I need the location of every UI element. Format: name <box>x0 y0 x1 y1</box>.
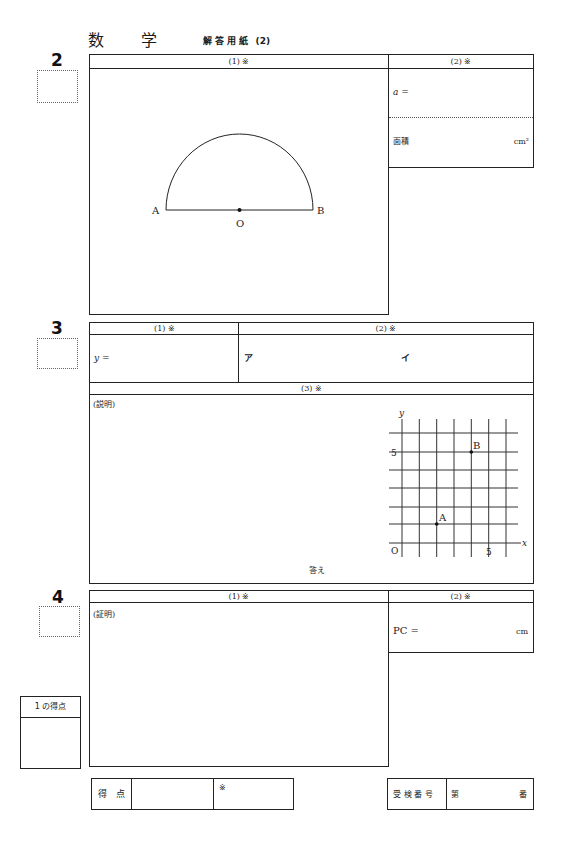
q4-part2-header-divider <box>389 602 533 603</box>
question-3-score-box <box>37 338 78 369</box>
q2-part2-box: (2) ※ a = 面積 cm² <box>388 54 534 168</box>
question-2-number: 2 <box>51 51 63 69</box>
q2-area-unit: cm² <box>514 136 529 147</box>
q3-part3-header-divider <box>90 394 533 395</box>
graph-point-b-label: B <box>473 440 480 451</box>
q2-part2-header: (2) ※ <box>389 55 533 68</box>
sheet-title: 解 答 用 紙 (2) <box>203 36 270 47</box>
q4-pc-label: PC = <box>393 625 419 636</box>
q2-area-label: 面積 <box>393 136 409 147</box>
subject-char-2: 学 <box>141 32 157 50</box>
q3-answer-label: 答え <box>309 565 325 576</box>
q3-explanation-label: (説明) <box>93 399 115 410</box>
q3-blank-a-label: ア <box>244 353 253 364</box>
q4-part1-header-divider <box>90 602 388 603</box>
graph-x-axis-label: x <box>522 538 527 548</box>
exam-number-dai: 第 <box>451 789 459 800</box>
subject-char-1: 数 <box>88 32 104 50</box>
question-4-score-box <box>39 606 80 637</box>
q3-row1-divider <box>90 334 533 335</box>
q1-score-label: 1 の得点 <box>21 700 80 713</box>
question-4-number: 4 <box>52 588 64 606</box>
q4-pc-unit: cm <box>516 626 528 637</box>
q4-part2-box: (2) ※ PC = cm <box>388 590 534 653</box>
grid-horizontal-lines <box>389 433 521 543</box>
sheet-number: (2) <box>256 36 271 46</box>
label-point-a: A <box>151 205 160 216</box>
q2-part1-box: (1) ※ A B O <box>89 54 389 315</box>
exam-number-ban: 番 <box>519 789 527 800</box>
graph-point-a <box>435 522 439 526</box>
total-score-divider-1 <box>131 779 132 809</box>
graph-origin-label: O <box>391 546 398 556</box>
total-score-box: 得 点 ※ <box>91 778 294 810</box>
label-point-o: O <box>236 218 244 229</box>
total-score-label: 得 点 <box>98 789 125 800</box>
q2-a-answer-label: a = <box>393 87 409 98</box>
exam-number-label: 受 検 番 号 <box>393 789 433 800</box>
graph-x-tick-5: 5 <box>486 547 492 557</box>
question-3-number: 3 <box>51 319 63 337</box>
q2-part2-header-divider <box>389 68 533 69</box>
total-score-divider-2 <box>213 779 214 809</box>
coordinate-grid: A B y x O 5 5 <box>380 400 533 570</box>
q2-part2-dotted-divider <box>389 117 533 118</box>
subject-title: 数 学 <box>88 32 158 52</box>
exam-number-divider <box>446 779 447 809</box>
q3-y-answer-label: y = <box>94 353 110 364</box>
graph-y-tick-5: 5 <box>391 448 397 458</box>
graph-point-a-label: A <box>438 512 447 523</box>
q4-part1-box: (1) ※ (証明) <box>89 590 389 767</box>
q4-proof-label: (証明) <box>93 609 115 620</box>
q3-box: (1) ※ (2) ※ y = ア イ (3) ※ (説明) 答え A <box>89 322 534 584</box>
label-point-b: B <box>317 205 324 216</box>
q3-column-divider <box>238 323 239 382</box>
q2-part1-header: (1) ※ <box>90 55 388 68</box>
q1-score-box: 1 の得点 <box>20 696 81 769</box>
q1-score-divider <box>21 717 80 718</box>
graph-y-axis-label: y <box>398 408 405 418</box>
q2-part1-header-divider <box>90 68 388 69</box>
semicircle-figure: A B O <box>141 126 341 231</box>
sheet-title-text: 解 答 用 紙 <box>203 36 248 46</box>
total-score-mark: ※ <box>219 782 226 793</box>
exam-number-box: 受 検 番 号 第 番 <box>387 778 534 810</box>
question-2-score-box <box>37 70 78 103</box>
semicircle-arc <box>166 134 313 210</box>
center-point-o <box>238 208 242 212</box>
q3-blank-i-label: イ <box>401 353 410 364</box>
